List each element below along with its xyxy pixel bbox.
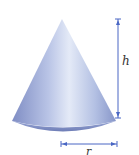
radius-label: r [86,145,91,155]
height-dimension [115,19,121,118]
height-label: h [122,54,130,68]
cone [12,19,116,132]
cone-diagram [0,0,139,155]
cone-surface [12,19,116,127]
